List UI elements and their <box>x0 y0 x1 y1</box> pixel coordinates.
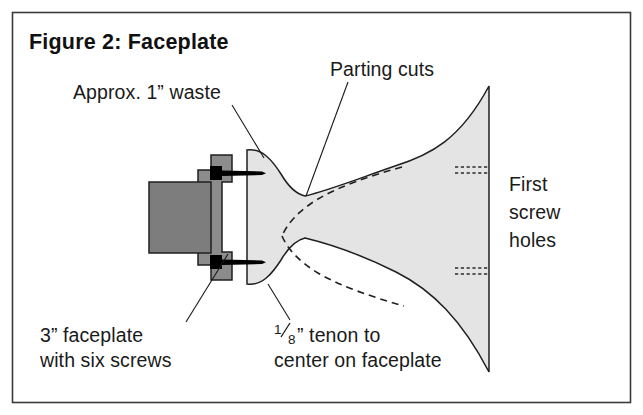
faceplate-label-line1: 3” faceplate <box>40 324 143 346</box>
figure-container: Figure 2: Faceplate Approx. 1” waste Par… <box>0 0 643 415</box>
tenon-fraction-numerator: 1 <box>274 322 282 337</box>
waste-label: Approx. 1” waste <box>73 81 221 103</box>
faceplate-label-line2: with six screws <box>39 349 172 371</box>
first-screw-holes-label-line1: First <box>509 173 548 195</box>
faceplate-diagram: Figure 2: Faceplate Approx. 1” waste Par… <box>0 0 643 415</box>
lathe-spindle <box>149 182 211 253</box>
first-screw-holes-label-line2: screw <box>509 201 561 223</box>
parting-cuts-label: Parting cuts <box>330 58 434 80</box>
tenon-label-rest: ” tenon to <box>297 324 380 346</box>
figure-title: Figure 2: Faceplate <box>29 30 229 54</box>
tenon-fraction-denominator: 8 <box>288 332 296 347</box>
tenon-label-line2: center on faceplate <box>274 349 442 371</box>
first-screw-holes-label-line3: holes <box>509 229 556 251</box>
